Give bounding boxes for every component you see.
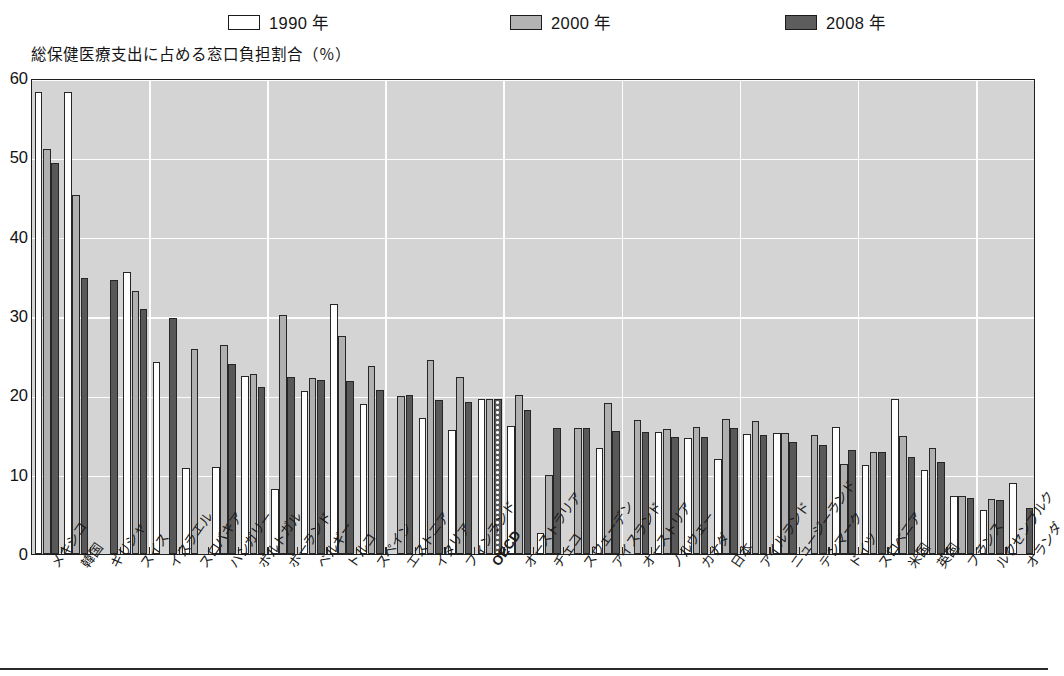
bar-アイルランド-1990年 [743, 434, 751, 554]
bar-英国-2008年 [937, 462, 945, 554]
legend-item-2008: 2008 年 [785, 10, 887, 34]
x-axis-labels: メキシコ韓国ギリシャスイスイスラエルスロバキアハンガリーポルトガルポーランドベル… [0, 556, 1048, 676]
bar-韓国-2000年 [72, 195, 80, 554]
legend-swatch-1990-icon [228, 15, 260, 30]
bar-アイルランド-2000年 [752, 421, 760, 554]
chart-legend: 1990 年 2000 年 2008 年 [0, 8, 1048, 34]
bar-スイス-2008年 [140, 309, 148, 554]
bars-layer [32, 80, 1034, 554]
bar-メキシコ-1990年 [35, 92, 43, 554]
bar-韓国-2008年 [81, 278, 89, 554]
y-tick-label-10: 10 [0, 466, 28, 485]
bar-英国-2000年 [929, 448, 937, 554]
y-tick-label-60: 60 [0, 69, 28, 88]
bar-オーストラリア-2000年 [515, 395, 523, 554]
bar-メキシコ-2008年 [51, 163, 59, 554]
y-tick-label-50: 50 [0, 148, 28, 167]
bar-スペイン-2000年 [368, 366, 376, 554]
bar-スウェーデン-2008年 [583, 428, 591, 554]
legend-swatch-2008-icon [785, 15, 817, 30]
legend-item-2000: 2000 年 [510, 10, 612, 34]
y-tick-label-20: 20 [0, 386, 28, 405]
bar-スイス-2000年 [132, 291, 140, 554]
plot-inner [32, 80, 1034, 554]
legend-swatch-2000-icon [510, 15, 542, 30]
legend-label-2008: 2008 年 [826, 10, 887, 34]
bar-スイス-1990年 [123, 272, 131, 554]
bar-日本-2008年 [730, 428, 738, 554]
legend-label-2000: 2000 年 [551, 10, 612, 34]
legend-item-1990: 1990 年 [228, 10, 330, 34]
bar-韓国-1990年 [64, 92, 72, 555]
bar-オーストラリア-2008年 [524, 410, 532, 554]
plot-area [31, 79, 1035, 555]
bar-アイルランド-2008年 [760, 435, 768, 554]
bar-ギリシャ-2008年 [110, 280, 118, 554]
page-bottom-rule [0, 668, 1048, 670]
bar-イスラエル-1990年 [153, 362, 161, 554]
legend-label-1990: 1990 年 [269, 10, 330, 34]
bar-フランス-2000年 [958, 496, 966, 554]
y-tick-label-40: 40 [0, 228, 28, 247]
bar-イスラエル-2008年 [169, 318, 177, 554]
y-axis-title: 総保健医療支出に占める窓口負担割合（％） [31, 42, 351, 64]
bar-メキシコ-2000年 [43, 149, 51, 554]
bar-スペイン-2008年 [376, 390, 384, 554]
y-tick-label-30: 30 [0, 307, 28, 326]
